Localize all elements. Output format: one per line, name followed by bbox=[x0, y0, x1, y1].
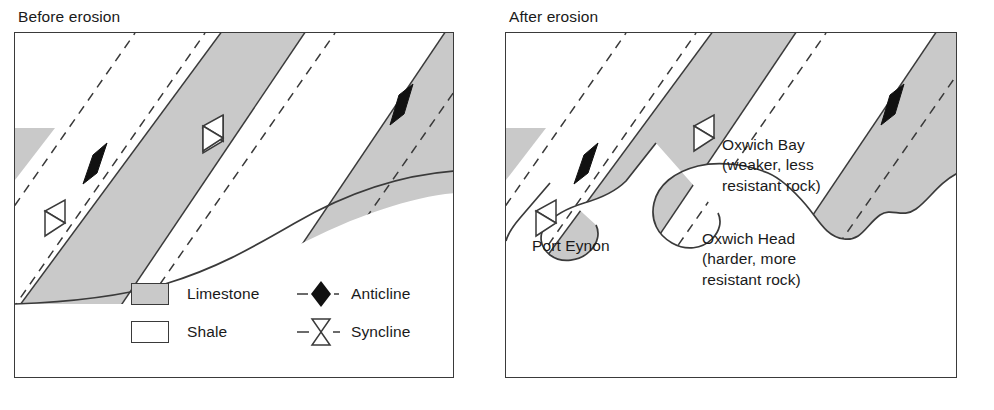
panel-after-caption: After erosion bbox=[509, 8, 957, 26]
legend-symbol-syncline bbox=[295, 317, 347, 347]
panel-before-frame: Limestone Anticline Shale Syncline bbox=[14, 32, 454, 378]
panel-after-erosion: After erosion bbox=[505, 8, 957, 378]
legend-swatch-shale bbox=[131, 321, 169, 343]
panel-before-erosion: Before erosion bbox=[14, 8, 454, 378]
legend-swatch-limestone bbox=[131, 283, 169, 305]
legend-label-syncline: Syncline bbox=[351, 323, 431, 341]
map-label-oxwich-bay: Oxwich Bay (weaker, less resistant rock) bbox=[722, 135, 821, 196]
panel-after-frame: Oxwich Bay (weaker, less resistant rock)… bbox=[505, 32, 957, 378]
panel-before-caption: Before erosion bbox=[18, 8, 454, 26]
legend: Limestone Anticline Shale Syncline bbox=[131, 275, 431, 351]
map-label-oxwich-head: Oxwich Head (harder, more resistant rock… bbox=[702, 229, 801, 290]
legend-label-limestone: Limestone bbox=[187, 285, 295, 303]
after-erosion-map bbox=[506, 33, 957, 378]
map-label-port-eynon: Port Eynon bbox=[532, 236, 610, 256]
legend-label-shale: Shale bbox=[187, 323, 295, 341]
legend-symbol-anticline bbox=[295, 279, 347, 309]
legend-label-anticline: Anticline bbox=[351, 285, 431, 303]
